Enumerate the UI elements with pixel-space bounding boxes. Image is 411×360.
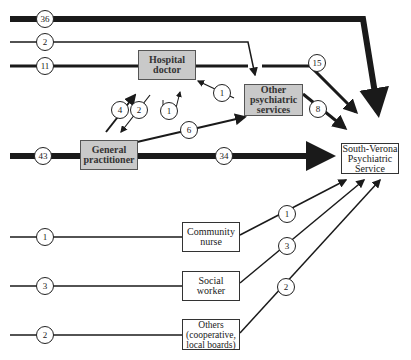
node-community-nurse: Community nurse <box>182 222 240 252</box>
node-social-worker: Social worker <box>182 271 240 301</box>
count-4: 4 <box>111 101 129 119</box>
count-2-hd-to-gp: 2 <box>130 101 148 119</box>
count-1-cn-out: 1 <box>278 205 296 223</box>
count-8: 8 <box>309 100 327 118</box>
count-2-direct: 2 <box>36 33 54 51</box>
count-36: 36 <box>36 10 54 28</box>
node-south-verona-psychiatric-service: South-Verona Psychiatric Service <box>341 143 399 174</box>
count-3-sw-in: 3 <box>36 277 54 295</box>
count-43: 43 <box>34 147 52 165</box>
count-3-sw-out: 3 <box>278 237 296 255</box>
node-hospital-doctor: Hospital doctor <box>138 50 196 80</box>
count-2-others-in: 2 <box>36 326 54 344</box>
node-others: Others (cooperative, local boards) <box>182 319 240 350</box>
count-2-others-out: 2 <box>277 278 295 296</box>
node-other-psychiatric-services: Other psychiatric services <box>244 84 303 116</box>
count-1-cn-in: 1 <box>36 228 54 246</box>
flow-2-others <box>240 180 380 333</box>
node-general-practitioner: General practitioner <box>80 140 138 170</box>
count-1-loop: 1 <box>160 102 178 120</box>
count-15: 15 <box>308 54 326 72</box>
count-6: 6 <box>180 121 198 139</box>
count-34: 34 <box>215 147 233 165</box>
flow-3-sw <box>240 180 364 283</box>
flow-arrows <box>0 0 411 360</box>
count-1-other-to-hd: 1 <box>213 84 231 102</box>
count-11: 11 <box>36 57 54 75</box>
